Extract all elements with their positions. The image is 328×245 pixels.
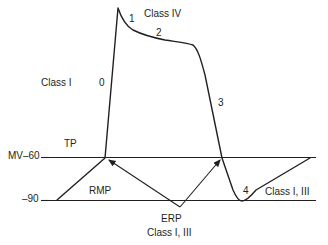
class-label-class-i-left: Class I bbox=[41, 78, 72, 88]
action-potential-svg bbox=[0, 0, 328, 245]
erp-class-label: Class I, III bbox=[147, 228, 191, 238]
threshold-potential-label: TP bbox=[64, 139, 77, 149]
phase-label-3: 3 bbox=[218, 98, 224, 108]
phase-label-2: 2 bbox=[156, 28, 162, 38]
erp-label: ERP bbox=[161, 214, 182, 224]
class-label-class-i-iii-right: Class I, III bbox=[265, 187, 309, 197]
phase-label-1: 1 bbox=[129, 14, 135, 24]
action-potential-waveform bbox=[57, 8, 310, 201]
action-potential-figure: MV–60 –90 TP RMP 0 1 2 3 4 Class I Class… bbox=[0, 0, 328, 245]
phase-label-0: 0 bbox=[99, 78, 105, 88]
phase-label-4: 4 bbox=[243, 186, 249, 196]
resting-membrane-potential-label: RMP bbox=[89, 186, 111, 196]
class-label-class-iv: Class IV bbox=[144, 9, 181, 19]
axis-label-mv60: MV–60 bbox=[8, 151, 40, 161]
axis-label-mv90: –90 bbox=[22, 194, 39, 204]
